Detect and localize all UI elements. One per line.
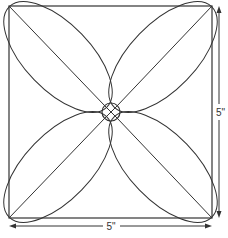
height-label: 5" [216,107,226,118]
width-label: 5" [106,221,116,232]
petal-bottom-left [0,94,130,238]
petal-top-right [91,0,228,130]
petals [0,0,228,238]
quilt-block-diagram: 5" 5" [0,0,228,238]
diagonal-lines [9,6,212,218]
petal-bottom-right [91,94,228,238]
